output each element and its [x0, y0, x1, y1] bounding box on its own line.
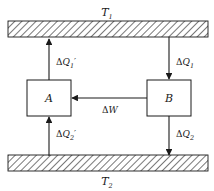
arrow-q1-label: ΔQ1 [176, 57, 194, 70]
arrow-q2-prime-label: ΔQ2′ [56, 129, 76, 142]
q1-prime-mark: ′ [74, 57, 76, 67]
q2-subscript: 2 [189, 134, 194, 142]
cold-reservoir-temperature-label: T2 [101, 175, 112, 190]
hot-reservoir-band [8, 21, 208, 37]
engine-b-label: B [164, 92, 173, 105]
hot-reservoir-temperature-label: T1 [101, 6, 112, 21]
arrow-work-w: ΔW [72, 98, 147, 115]
q2-prime-mark: ′ [74, 129, 76, 139]
arrow-heat-q1-prime: ΔQ1′ [49, 39, 76, 80]
q1-subscript: 1 [190, 62, 194, 70]
arrow-w-label: ΔW [102, 105, 119, 115]
engine-box-a: A [27, 80, 71, 116]
hot-reservoir-rect [8, 21, 208, 37]
engine-box-b: B [147, 80, 191, 116]
thermodynamic-diagram: A B ΔQ1′ ΔQ1 ΔQ2′ [0, 0, 214, 191]
arrow-heat-q1: ΔQ1 [169, 37, 194, 79]
t2-subscript: 2 [108, 182, 113, 190]
arrow-q2-label: ΔQ2 [176, 129, 194, 142]
cold-reservoir-band [8, 155, 208, 171]
arrow-heat-q2: ΔQ2 [169, 116, 194, 155]
cold-reservoir-rect [8, 155, 208, 171]
engine-a-label: A [44, 92, 53, 105]
diagram-canvas: A B ΔQ1′ ΔQ1 ΔQ2′ [0, 0, 214, 191]
arrow-q1-prime-label: ΔQ1′ [56, 57, 76, 70]
w-symbol: W [109, 105, 119, 115]
arrow-heat-q2-prime: ΔQ2′ [49, 117, 76, 156]
t1-subscript: 1 [109, 13, 113, 21]
